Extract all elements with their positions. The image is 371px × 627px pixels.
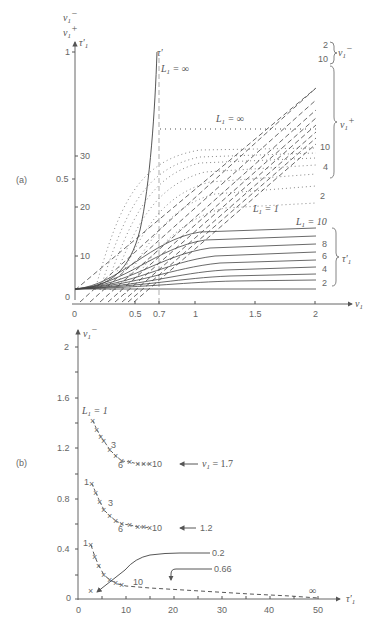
brace-label-nu-plus: ν1+ <box>340 115 355 132</box>
label-b-10b: 10 <box>152 523 162 533</box>
label-b-10c: 10 <box>133 577 143 587</box>
brace-nu-minus <box>330 42 337 64</box>
svg-text:40: 40 <box>264 605 274 615</box>
svg-text:×: × <box>135 522 140 532</box>
label-nu-1.7: ν1 = 1.7 <box>202 458 233 471</box>
svg-text:2: 2 <box>64 342 69 352</box>
label-b-3a: 3 <box>111 440 116 450</box>
svg-text:10: 10 <box>121 605 131 615</box>
ytick-1: 1 <box>65 47 70 57</box>
label-nu-minus-10: 10 <box>318 54 328 64</box>
svg-text:×: × <box>135 459 140 469</box>
label-L-10: L1 = 10 <box>295 216 327 229</box>
svg-text:20: 20 <box>168 605 178 615</box>
label-nu-plus-2: 2 <box>320 191 325 201</box>
label-0.66: 0.66 <box>214 564 232 574</box>
ytick-30: 30 <box>80 151 90 161</box>
svg-text:×: × <box>88 540 93 550</box>
label-0.2: 0.2 <box>212 548 225 558</box>
svg-text:×: × <box>119 580 124 590</box>
label-b-1c: 1 <box>83 538 88 548</box>
svg-text:×: × <box>141 522 146 532</box>
svg-text:2: 2 <box>313 309 318 319</box>
svg-text:×: × <box>101 570 106 580</box>
label-nu-plus-10: 10 <box>320 142 330 152</box>
svg-text:×: × <box>127 457 132 467</box>
y-label-tau: τ'1 <box>79 37 88 50</box>
label-tau-8: 8 <box>322 239 327 249</box>
svg-text:0.4: 0.4 <box>57 544 70 554</box>
ytick-20: 20 <box>80 202 90 212</box>
panel-a-label: (a) <box>16 175 27 185</box>
y-label-b: ν1− <box>83 324 98 341</box>
svg-text:0: 0 <box>72 309 77 319</box>
svg-text:50: 50 <box>313 605 323 615</box>
ytick-0.5: 0.5 <box>56 174 69 184</box>
label-tau-prime: τ' <box>157 47 164 58</box>
y-label-nu-plus: ν1+ <box>63 23 78 40</box>
x-label-b: τ'1 <box>346 593 355 606</box>
svg-text:1: 1 <box>193 309 198 319</box>
label-b-6b: 6 <box>118 524 123 534</box>
label-infinity: ∞ <box>309 585 316 596</box>
label-L-1: L1 = 1 <box>252 203 279 216</box>
label-L-inf-2: L1 = ∞ <box>215 113 244 126</box>
label-b-3b: 3 <box>108 498 113 508</box>
svg-text:1.2: 1.2 <box>57 443 70 453</box>
nu-minus-curves <box>75 88 316 302</box>
brace-label-tau: τ'1 <box>342 253 351 266</box>
svg-text:0.5: 0.5 <box>129 309 142 319</box>
svg-text:0.7: 0.7 <box>153 309 166 319</box>
ytick-10: 10 <box>80 251 90 261</box>
panel-b-label: (b) <box>16 458 27 468</box>
svg-text:×: × <box>101 505 106 515</box>
label-b-6a: 6 <box>118 460 123 470</box>
svg-text:×: × <box>88 586 93 596</box>
x-label-nu: ν1 <box>355 298 363 311</box>
svg-text:0: 0 <box>76 605 81 615</box>
brace-nu-plus <box>330 66 337 178</box>
svg-text:×: × <box>113 578 118 588</box>
panel-b: (b) ν1− 2 1.6 1.2 0.8 0.4 0 τ'1 0 10 20 <box>16 324 355 615</box>
svg-text:×: × <box>127 520 132 530</box>
brace-label-nu-minus: ν1− <box>338 43 353 60</box>
label-b-1b: 1 <box>84 477 89 487</box>
label-tau-6: 6 <box>322 251 327 261</box>
svg-text:0: 0 <box>66 593 71 603</box>
label-1.2: 1.2 <box>200 523 213 533</box>
label-nu-minus-2: 2 <box>323 40 328 50</box>
svg-text:1.6: 1.6 <box>57 393 70 403</box>
arrow-0.66 <box>171 569 212 580</box>
figure: (a) ν1− ν1+ τ'1 1 0.5 0 30 20 10 ν1 0 0.… <box>0 0 371 627</box>
y-ticks-b: 2 1.6 1.2 0.8 0.4 0 <box>57 342 78 603</box>
svg-text:1.5: 1.5 <box>249 309 262 319</box>
brace-tau <box>332 228 339 286</box>
svg-text:×: × <box>101 436 106 446</box>
panel-a: (a) ν1− ν1+ τ'1 1 0.5 0 30 20 10 ν1 0 0.… <box>16 8 363 319</box>
label-L-inf-1: L1 = ∞ <box>160 63 189 76</box>
label-nu-plus-4: 4 <box>323 162 328 172</box>
label-tau-4: 4 <box>322 264 327 274</box>
svg-text:×: × <box>107 511 112 521</box>
label-tau-2: 2 <box>322 278 327 288</box>
svg-text:0.8: 0.8 <box>57 494 70 504</box>
ytick-0: 0 <box>65 292 70 302</box>
label-b-10a: 10 <box>152 459 162 469</box>
markers-0.66: ×××× ××× × <box>88 540 124 596</box>
svg-text:×: × <box>141 459 146 469</box>
svg-text:30: 30 <box>217 605 227 615</box>
